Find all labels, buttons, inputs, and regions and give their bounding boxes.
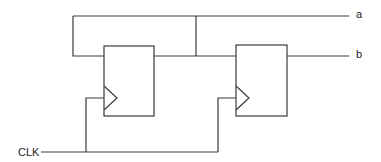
flip-flop-1 — [104, 46, 154, 116]
output-b-label: b — [356, 48, 362, 60]
wire-feedback-left — [73, 16, 104, 56]
circuit-diagram: CLK a b — [0, 0, 381, 162]
clk-label: CLK — [18, 146, 40, 158]
output-a-label: a — [356, 8, 363, 20]
wire-clk-ff1 — [86, 98, 104, 152]
flip-flop-2 — [236, 45, 287, 116]
wire-clk-ff2 — [218, 98, 236, 152]
